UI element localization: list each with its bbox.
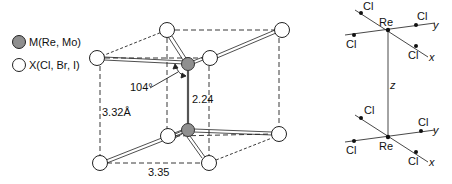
halide-atom — [93, 156, 108, 171]
cl-label: Cl — [346, 38, 356, 50]
cl-label: Cl — [408, 49, 418, 61]
legend: M(Re, Mo) X(Cl, Br, I) — [13, 36, 81, 72]
halide-atoms — [90, 23, 290, 171]
metal-atom-lower — [182, 124, 195, 137]
cl-label: Cl — [363, 0, 373, 12]
metal-metal-distance: 2.24 — [192, 93, 213, 105]
m2x8-structure-figure: M(Re, Mo) X(Cl, Br, I) — [0, 0, 452, 184]
vertical-xx-distance: 3.32Å — [102, 106, 131, 118]
x-axis-label: x — [428, 51, 435, 63]
y-axis-label: y — [432, 124, 440, 136]
halide-atom — [203, 51, 218, 66]
halide-atom — [272, 127, 287, 142]
halide-atom — [161, 129, 176, 144]
halide-legend-label: X(Cl, Br, I) — [29, 59, 80, 71]
z-axis-label: z — [389, 79, 396, 91]
re-label-bottom: Re — [379, 140, 393, 152]
metal-atom-upper — [182, 58, 195, 71]
halide-atom — [90, 51, 105, 66]
y-axis-label: y — [432, 19, 440, 31]
cl-label: Cl — [418, 116, 428, 128]
cl-label: Cl — [364, 104, 374, 116]
cl-label: Cl — [346, 144, 356, 156]
metal-legend-icon — [13, 36, 26, 49]
halide-legend-icon — [13, 59, 26, 72]
angle-marker — [150, 64, 186, 88]
halide-atom — [275, 23, 290, 38]
cube-edges — [97, 30, 282, 163]
re-label-top: Re — [379, 16, 393, 28]
horizontal-xx-distance: 3.35 — [148, 166, 169, 178]
halide-atom — [160, 23, 175, 38]
halide-atom — [202, 156, 217, 171]
cl-label: Cl — [417, 10, 427, 22]
x-axis-label: x — [428, 156, 435, 168]
angle-label: 104° — [130, 81, 153, 93]
metal-legend-label: M(Re, Mo) — [29, 36, 81, 48]
cl-label: Cl — [408, 155, 418, 167]
